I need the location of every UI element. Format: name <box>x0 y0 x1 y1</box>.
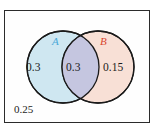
probability-intersection: 0.3 <box>66 62 80 74</box>
probability-a-only: 0.3 <box>26 62 40 74</box>
set-label-b: B <box>100 36 107 47</box>
venn-stage: A B 0.3 0.3 0.15 0.25 <box>5 11 151 124</box>
probability-outside: 0.25 <box>14 104 33 115</box>
venn-diagram-figure: A B 0.3 0.3 0.15 0.25 <box>0 0 156 131</box>
set-label-a: A <box>52 36 59 47</box>
sample-space-frame: A B 0.3 0.3 0.15 0.25 <box>4 10 150 123</box>
probability-b-only: 0.15 <box>103 62 123 74</box>
